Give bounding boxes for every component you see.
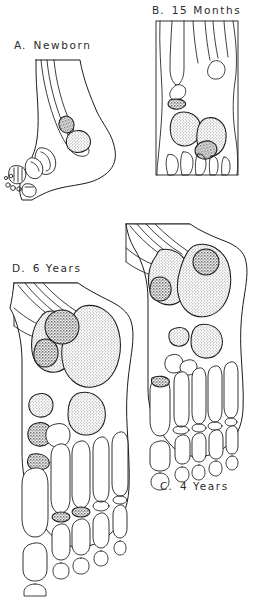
panel-b-15-months-drawing: [156, 21, 238, 175]
panel-d-cuneiform-intermediate-center: [29, 394, 53, 418]
panel-d-navicular-center: [34, 339, 58, 367]
panel-b-cuboid-center: [168, 99, 186, 109]
panel-b-letter: B.: [152, 5, 165, 16]
panel-b-talus-center: [170, 112, 200, 146]
panel-label-c: C.4 Years: [160, 481, 229, 492]
panel-a-newborn-drawing: [4, 60, 115, 200]
panel-label-a: A.Newborn: [14, 40, 92, 51]
panel-c-4-years-drawing: [126, 224, 247, 490]
panel-d-age: 6 Years: [33, 263, 82, 274]
panel-c-cuboid-center: [193, 249, 219, 275]
panel-c-letter: C.: [160, 481, 173, 492]
figure-root: A.Newborn B.15 Months C.4 Years D.6 Year…: [0, 0, 260, 597]
panel-a-letter: A.: [14, 40, 27, 51]
panel-a-age: Newborn: [34, 40, 92, 51]
foot-ossification-illustration: [0, 0, 260, 597]
panel-label-d: D.6 Years: [12, 263, 82, 274]
panel-c-cuneiform-intermediate-center: [169, 327, 189, 346]
panel-c-navicular-center: [150, 277, 171, 301]
panel-b-age: 15 Months: [172, 5, 241, 16]
panel-a-talus-center: [66, 131, 90, 153]
panel-c-cuneiform-lateral-center: [191, 324, 222, 358]
panel-label-b: B.15 Months: [152, 5, 241, 16]
panel-d-cuneiform-lateral-center: [68, 392, 105, 435]
panel-d-cuboid-center: [45, 310, 79, 344]
panel-d-6-years-drawing: [10, 283, 133, 596]
panel-c-age: 4 Years: [180, 481, 229, 492]
panel-d-letter: D.: [12, 263, 26, 274]
